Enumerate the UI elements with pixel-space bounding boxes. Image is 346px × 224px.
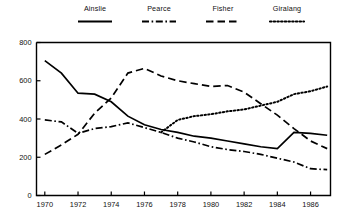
x-axis-tick-label: 1986 [302, 200, 318, 209]
y-axis-tick-label: 800 [19, 38, 31, 47]
y-axis-tick-label: 600 [19, 76, 31, 85]
series-line-ainslie [45, 61, 327, 149]
y-axis-tick-label: 200 [19, 153, 31, 162]
y-axis-tick-label: 400 [19, 115, 31, 124]
line-chart-canvas: 0200400600800197019721974197619781980198… [0, 0, 346, 224]
x-axis-tick-label: 1976 [136, 200, 152, 209]
x-axis-tick-label: 1978 [169, 200, 185, 209]
x-axis-tick-label: 1984 [269, 200, 285, 209]
series-line-giralang [161, 86, 327, 132]
series-line-pearce [45, 120, 327, 170]
y-axis-tick-label: 0 [27, 191, 31, 200]
x-axis-tick-label: 1982 [236, 200, 252, 209]
x-axis-tick-label: 1974 [103, 200, 119, 209]
chart-figure: Ainslie Pearce Fisher Giralang 020040060… [0, 0, 346, 224]
plot-area: 0200400600800197019721974197619781980198… [0, 0, 346, 224]
x-axis-tick-label: 1980 [203, 200, 219, 209]
x-axis-tick-label: 1970 [37, 200, 53, 209]
series-layer [45, 61, 327, 170]
x-axis-tick-label: 1972 [70, 200, 86, 209]
